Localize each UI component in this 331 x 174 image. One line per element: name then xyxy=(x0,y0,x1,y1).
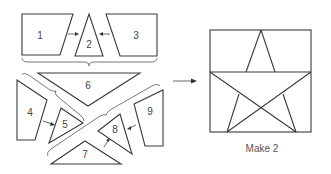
arrow-9-to-8 xyxy=(127,125,136,130)
arrow-3-to-2 xyxy=(99,32,110,36)
piece-6-label: 6 xyxy=(85,80,91,91)
top-row-brace xyxy=(22,58,157,66)
piece-8: 8 xyxy=(98,114,132,154)
piece-4-label: 4 xyxy=(27,107,33,118)
piece-1-label: 1 xyxy=(37,30,43,41)
piece-5-label: 5 xyxy=(62,119,68,130)
arrow-1-to-2 xyxy=(68,32,79,36)
piece-1: 1 xyxy=(22,14,73,55)
piece-4: 4 xyxy=(17,80,47,140)
result-arrow xyxy=(173,79,197,84)
piece-7: 7 xyxy=(51,141,121,164)
piece-9: 9 xyxy=(134,90,163,146)
arrow-4-to-5 xyxy=(43,121,55,126)
piece-8-label: 8 xyxy=(112,124,118,135)
piece-7-label: 7 xyxy=(82,149,88,160)
piece-3-label: 3 xyxy=(133,30,139,41)
piece-9-label: 9 xyxy=(147,106,153,117)
piece-2-label: 2 xyxy=(86,39,92,50)
piece-3: 3 xyxy=(106,14,157,56)
make-quantity-caption: Make 2 xyxy=(238,143,286,154)
piece-2: 2 xyxy=(75,14,103,56)
piece-6: 6 xyxy=(38,73,140,106)
finished-star-block xyxy=(210,30,311,132)
arrow-7-to-8 xyxy=(104,138,110,147)
